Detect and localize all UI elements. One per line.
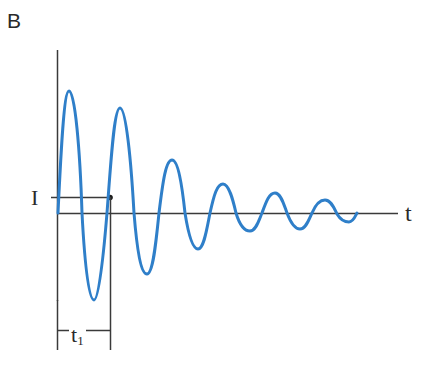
damped-oscillation-plot (0, 0, 436, 382)
y-axis-label: I (31, 185, 38, 211)
t1-label: t1 (69, 322, 86, 349)
t1-label-subscript: 1 (77, 333, 84, 348)
x-axis-label: t (405, 200, 412, 227)
damped-wave (58, 91, 357, 300)
